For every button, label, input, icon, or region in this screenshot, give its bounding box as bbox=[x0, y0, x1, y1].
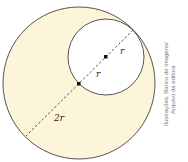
label-r-lower: r bbox=[96, 69, 101, 79]
credit-line-2: Arquivo da editora bbox=[170, 65, 176, 114]
label-2r: 2r bbox=[53, 113, 65, 123]
credit-line-1: Ilustrações: Banco de imagens/ bbox=[163, 42, 169, 126]
label-r-upper: r bbox=[120, 46, 125, 56]
circles-diagram: r r 2r bbox=[0, 0, 188, 162]
small-circle-center-dot bbox=[104, 55, 108, 59]
big-circle-center-dot bbox=[77, 82, 81, 86]
image-credit: Ilustrações: Banco de imagens/ Arquivo d… bbox=[162, 28, 186, 128]
